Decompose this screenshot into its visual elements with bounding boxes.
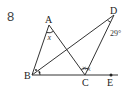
label-b: B (24, 70, 31, 81)
problem-number: 8 (7, 9, 14, 24)
label-e: E (107, 77, 113, 88)
label-d: D (110, 5, 117, 16)
segment-ab (32, 25, 49, 75)
label-c: C (82, 77, 89, 88)
angle-mark-dot-2 (39, 72, 41, 74)
angle-mark-dot-1 (35, 69, 37, 71)
angle-label-x: x (47, 33, 52, 42)
angle-arc-d (108, 20, 111, 22)
angle-label-29: 29° (110, 29, 121, 38)
geometry-figure: 8 × × x 29° A B C D E (0, 0, 129, 91)
angle-mark-cross-2: × (87, 65, 92, 74)
label-a: A (45, 14, 53, 25)
